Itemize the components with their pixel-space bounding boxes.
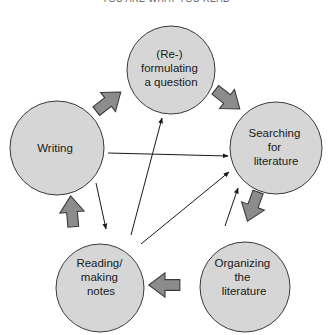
block-arrow-searching-to-organizing (236, 188, 269, 225)
block-arrow-organizing-to-reading (149, 273, 180, 297)
research-cycle-diagram: (Re-) formulating a question Searching f… (0, 0, 332, 335)
block-arrow-question-to-searching (208, 80, 247, 118)
block-arrow-writing-to-question (89, 82, 128, 120)
block-arrow-reading-to-writing (58, 195, 85, 228)
arrow-writing-to-searching (108, 153, 228, 156)
arrow-reading-to-question (131, 118, 162, 235)
node-writing-label: Writing (37, 142, 73, 154)
arrow-reading-to-searching (141, 172, 229, 244)
arrow-writing-to-reading (96, 183, 106, 229)
arrow-organizing-to-searching (225, 188, 238, 226)
